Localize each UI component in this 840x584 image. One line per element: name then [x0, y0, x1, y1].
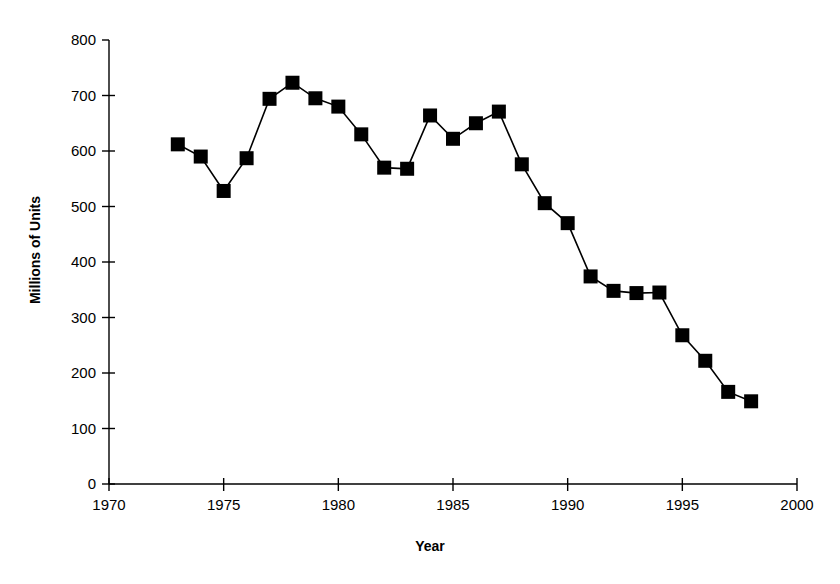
data-point-marker [263, 92, 277, 106]
y-tick-label: 500 [71, 198, 96, 215]
data-point-marker [561, 216, 575, 230]
data-point-marker [400, 162, 414, 176]
data-point-marker [377, 161, 391, 175]
line-chart: Millions of Units Year 01002003004005006… [0, 0, 840, 584]
data-point-marker [354, 127, 368, 141]
x-tick-label: 1985 [436, 496, 469, 513]
y-tick-label: 800 [71, 31, 96, 48]
y-tick-label: 400 [71, 253, 96, 270]
data-point-marker [721, 385, 735, 399]
x-tick-label: 1980 [322, 496, 355, 513]
data-point-marker [285, 76, 299, 90]
y-tick-label: 700 [71, 87, 96, 104]
data-point-marker [423, 108, 437, 122]
y-tick-label: 100 [71, 420, 96, 437]
x-axis-title: Year [415, 538, 445, 554]
y-axis-title: Millions of Units [27, 196, 43, 304]
data-point-marker [538, 196, 552, 210]
x-tick-label: 1975 [207, 496, 240, 513]
y-tick-label: 300 [71, 309, 96, 326]
data-point-marker [308, 91, 322, 105]
data-point-marker [629, 286, 643, 300]
x-tick-label: 1995 [666, 496, 699, 513]
data-point-marker [217, 184, 231, 198]
x-axis-ticks: 1970197519801985199019952000 [92, 478, 813, 513]
data-point-marker [171, 137, 185, 151]
data-point-marker [446, 132, 460, 146]
data-point-marker [744, 394, 758, 408]
data-point-marker [584, 269, 598, 283]
x-tick-label: 2000 [780, 496, 813, 513]
data-point-marker [194, 150, 208, 164]
chart-container: Millions of Units Year 01002003004005006… [0, 0, 840, 584]
data-point-marker [698, 354, 712, 368]
data-point-marker [331, 100, 345, 114]
data-point-marker [240, 151, 254, 165]
series-line-millions-of-units [178, 83, 751, 402]
data-point-marker [469, 116, 483, 130]
data-point-marker [652, 286, 666, 300]
data-point-marker [492, 105, 506, 119]
x-tick-label: 1970 [92, 496, 125, 513]
data-point-marker [515, 157, 529, 171]
y-tick-label: 0 [88, 475, 96, 492]
data-point-marker [675, 328, 689, 342]
y-tick-label: 600 [71, 142, 96, 159]
data-point-marker [607, 284, 621, 298]
x-tick-label: 1990 [551, 496, 584, 513]
y-tick-label: 200 [71, 364, 96, 381]
